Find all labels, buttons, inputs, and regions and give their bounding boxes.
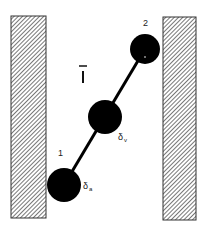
sphere-2 bbox=[130, 34, 160, 64]
label-node-2: 2 bbox=[143, 18, 148, 28]
label-node-1: 1 bbox=[58, 148, 63, 158]
sphere-middle bbox=[88, 100, 122, 134]
diagram-canvas: 2 1 δv δa bbox=[0, 0, 206, 229]
left-wall bbox=[11, 16, 46, 218]
sphere-1 bbox=[47, 168, 81, 202]
right-wall bbox=[163, 17, 196, 220]
label-delta-a: δa bbox=[83, 181, 93, 192]
sphere-2-highlight bbox=[144, 56, 146, 58]
label-delta-v: δv bbox=[118, 132, 127, 143]
